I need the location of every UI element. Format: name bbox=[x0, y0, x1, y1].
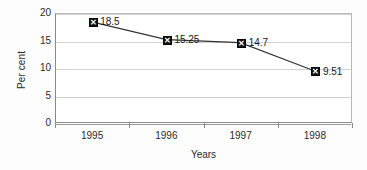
series-line bbox=[56, 14, 351, 122]
x-axis-tick-label: 1995 bbox=[81, 130, 103, 142]
y-axis-title: Per cent bbox=[15, 15, 29, 125]
data-point-label: 14.7 bbox=[249, 37, 268, 48]
marker-x-icon: ✕ bbox=[164, 37, 171, 44]
data-point-marker[interactable]: ✕ bbox=[163, 36, 172, 45]
y-axis-tick-label: 5 bbox=[30, 91, 51, 101]
x-axis-tick bbox=[204, 123, 205, 128]
y-axis-tick-label: 20 bbox=[30, 8, 51, 18]
y-axis-tick-label: 15 bbox=[30, 36, 51, 46]
marker-x-icon: ✕ bbox=[238, 40, 245, 47]
y-axis-tick-label: 10 bbox=[30, 63, 51, 73]
line-chart: Per cent 05101520 ✕18.5✕15.25✕14.7✕9.51 … bbox=[0, 0, 367, 170]
y-axis-tick-labels: 05101520 bbox=[30, 0, 51, 170]
x-axis-tick-label: 1998 bbox=[304, 130, 326, 142]
x-axis-tick-label: 1996 bbox=[155, 130, 177, 142]
x-axis-tick-label: 1997 bbox=[230, 130, 252, 142]
data-point-label: 9.51 bbox=[323, 66, 342, 77]
x-axis-tick bbox=[55, 123, 56, 128]
data-point-marker[interactable]: ✕ bbox=[311, 67, 320, 76]
plot-area: ✕18.5✕15.25✕14.7✕9.51 bbox=[55, 13, 352, 123]
x-axis-title: Years bbox=[55, 149, 352, 161]
x-axis-tick bbox=[129, 123, 130, 128]
marker-x-icon: ✕ bbox=[312, 68, 319, 75]
data-point-marker[interactable]: ✕ bbox=[89, 18, 98, 27]
marker-x-icon: ✕ bbox=[90, 19, 97, 26]
data-point-label: 18.5 bbox=[100, 16, 119, 27]
series-polyline bbox=[93, 22, 314, 71]
data-point-marker[interactable]: ✕ bbox=[237, 39, 246, 48]
y-axis-tick-label: 0 bbox=[30, 118, 51, 128]
data-point-label: 15.25 bbox=[174, 34, 199, 45]
x-axis-tick bbox=[278, 123, 279, 128]
x-axis-tick bbox=[352, 123, 353, 128]
